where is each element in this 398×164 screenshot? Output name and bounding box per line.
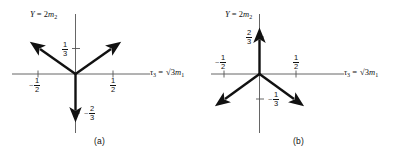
x-tick-pos-half-fraction: 1 2 (293, 54, 299, 70)
panel-a: Y = 2m2 τ3 = √3m1 − 1 2 1 2 1 3 (0, 0, 199, 164)
fraction-numerator: 1 (110, 77, 116, 85)
x-axis-label-m-sub: 1 (181, 72, 184, 78)
fraction-denominator: 3 (89, 113, 95, 122)
panel-a-caption: (a) (0, 136, 199, 146)
fraction-numerator: 1 (62, 41, 68, 49)
x-tick-pos-half-label: 1 2 (293, 54, 299, 70)
fraction-denominator: 3 (62, 49, 68, 58)
weight-vector-up-right (76, 49, 112, 74)
x-tick-neg-half-fraction: 1 2 (34, 77, 40, 93)
fraction-denominator: 2 (34, 85, 40, 94)
y-tick-neg-third-fraction: 1 3 (273, 91, 279, 107)
x-tick-pos-half-fraction: 1 2 (110, 77, 116, 93)
weight-diagram-figure: Y = 2m2 τ3 = √3m1 − 1 2 1 2 1 3 (0, 0, 398, 164)
fraction-denominator: 3 (273, 99, 279, 108)
fraction-numerator: 2 (246, 29, 252, 37)
y-axis-label: Y = 2m2 (225, 9, 252, 20)
y-axis-label-m-sub: 2 (54, 14, 57, 20)
y-axis-label-eq: = 2 (35, 9, 48, 19)
fraction-numerator: 1 (273, 91, 279, 99)
fraction-numerator: 1 (34, 77, 40, 85)
sqrt-icon: √3 (165, 67, 175, 77)
y-tick-neg-two-thirds-label: − 2 3 (84, 105, 95, 121)
x-tick-neg-half-label: − 1 2 (29, 77, 40, 93)
fraction-denominator: 2 (220, 62, 226, 71)
x-tick-neg-half-label: − 1 2 (215, 54, 226, 70)
panel-b-caption: (b) (199, 136, 398, 146)
x-axis-label-m-sub: 1 (375, 72, 378, 78)
panel-b: Y = 2m2 τ3 = √3m1 − 1 2 1 2 2 3 − (199, 0, 398, 164)
y-axis-label-m-sub: 2 (249, 14, 252, 20)
x-axis-label: τ3 = √3m1 (344, 67, 378, 78)
x-axis-label-eq: = (350, 67, 359, 77)
y-tick-neg-two-thirds-fraction: 2 3 (89, 105, 95, 121)
weight-vector-up-left (40, 49, 76, 74)
y-tick-neg-third-label: − 1 3 (268, 91, 279, 107)
x-axis-label-sqrt: 3 (171, 67, 175, 77)
fraction-denominator: 2 (293, 62, 299, 71)
y-axis-label-eq: = 2 (230, 9, 243, 19)
fraction-numerator: 1 (293, 54, 299, 62)
weight-vector-down-left (225, 74, 260, 99)
fraction-denominator: 3 (246, 37, 252, 46)
fraction-numerator: 2 (89, 105, 95, 113)
y-tick-two-thirds-fraction: 2 3 (246, 29, 252, 45)
sqrt-icon: √3 (359, 67, 369, 77)
x-tick-neg-half-fraction: 1 2 (220, 54, 226, 70)
y-tick-third-fraction: 1 3 (62, 41, 68, 57)
fraction-denominator: 2 (110, 85, 116, 94)
x-axis-label-sqrt: 3 (365, 67, 369, 77)
fraction-numerator: 1 (220, 54, 226, 62)
x-axis-label-eq: = (156, 67, 165, 77)
y-tick-third-label: 1 3 (62, 41, 68, 57)
y-tick-two-thirds-label: 2 3 (246, 29, 252, 45)
x-axis-label: τ3 = √3m1 (150, 67, 184, 78)
x-tick-pos-half-label: 1 2 (110, 77, 116, 93)
y-axis-label: Y = 2m2 (30, 9, 57, 20)
